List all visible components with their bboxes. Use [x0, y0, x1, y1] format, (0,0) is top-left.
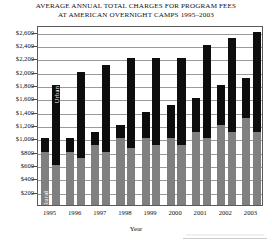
- chart-title-line-2: AT AMERICAN OVERNIGHT CAMPS 1995–2003: [0, 11, 272, 20]
- y-axis-tick-label: $2,000: [0, 70, 34, 77]
- x-axis-tick-label-1998: 1998: [112, 209, 137, 216]
- bar-segment-urban: [116, 125, 124, 138]
- scan-artifact-line: [183, 238, 267, 239]
- bar-segment-rural: [91, 145, 99, 205]
- bar-2002-2: [228, 38, 236, 205]
- bar-segment-rural: [203, 138, 211, 205]
- bar-2001-2: [203, 45, 211, 205]
- bar-segment-urban: [91, 132, 99, 145]
- bar-segment-rural: [192, 132, 200, 205]
- bar-1999-2: [152, 58, 160, 205]
- bar-2003-2: [253, 32, 261, 205]
- x-axis-tick-label-2003: 2003: [238, 209, 263, 216]
- bar-segment-rural: [127, 148, 135, 205]
- bar-segment-rural: [177, 145, 185, 205]
- x-axis-label: Year: [0, 225, 272, 232]
- bar-1999-1: [142, 112, 150, 205]
- scan-artifact-light: [186, 234, 264, 236]
- x-axis-tick-label-1999: 1999: [137, 209, 162, 216]
- bar-1995-2: Urban: [52, 85, 60, 205]
- bar-2003-1: [242, 78, 250, 205]
- bar-2001-1: [192, 98, 200, 205]
- bar-segment-urban: Urban: [52, 85, 60, 165]
- x-axis-tick-label-1996: 1996: [62, 209, 87, 216]
- bar-segment-urban: [152, 58, 160, 145]
- y-axis-tick-label: $800: [0, 150, 34, 157]
- y-axis-tick-label: $400: [0, 176, 34, 183]
- bar-segment-urban: [102, 65, 110, 152]
- bar-segment-urban: [253, 32, 261, 132]
- bar-segment-urban: [77, 72, 85, 159]
- bar-segment-urban: [142, 112, 150, 139]
- y-axis-tick-label: $600: [0, 163, 34, 170]
- y-axis-tick-label: $2,400: [0, 43, 34, 50]
- bar-segment-urban: [41, 138, 49, 151]
- y-axis-tick-label: $1,000: [0, 136, 34, 143]
- bar-series-group: RuralUrban: [38, 27, 262, 205]
- bar-2000-2: [177, 58, 185, 205]
- bar-1995-1: Rural: [41, 138, 49, 205]
- bar-1997-1: [91, 132, 99, 205]
- bar-1996-2: [77, 72, 85, 205]
- chart-title-line-1: AVERAGE ANNUAL TOTAL CHARGES FOR PROGRAM…: [0, 2, 272, 11]
- bar-segment-rural: [167, 138, 175, 205]
- bar-1996-1: [66, 138, 74, 205]
- bar-segment-urban: [177, 58, 185, 145]
- bar-segment-rural: [253, 132, 261, 205]
- in-bar-label-urban: Urban: [52, 86, 59, 103]
- plot-area: RuralUrban: [37, 26, 263, 206]
- bar-segment-urban: [167, 105, 175, 138]
- bar-segment-urban: [203, 45, 211, 138]
- bar-1998-2: [127, 58, 135, 205]
- x-axis-tick-label-2001: 2001: [188, 209, 213, 216]
- bar-segment-rural: [102, 152, 110, 205]
- bar-segment-rural: [228, 132, 236, 205]
- bar-1997-2: [102, 65, 110, 205]
- bar-segment-rural: [217, 125, 225, 205]
- bar-segment-rural: [52, 165, 60, 205]
- y-axis-tick-label: $1,200: [0, 123, 34, 130]
- bar-2000-1: [167, 105, 175, 205]
- bar-segment-urban: [217, 85, 225, 125]
- bar-segment-urban: [242, 78, 250, 118]
- bar-segment-urban: [192, 98, 200, 131]
- x-axis-tick-label-2002: 2002: [213, 209, 238, 216]
- bar-segment-urban: [66, 138, 74, 151]
- bar-segment-rural: [116, 138, 124, 205]
- y-axis-tick-label: $1,600: [0, 96, 34, 103]
- bar-segment-rural: Rural: [41, 152, 49, 205]
- bar-segment-urban: [127, 58, 135, 148]
- bar-segment-urban: [228, 38, 236, 131]
- bar-2002-1: [217, 85, 225, 205]
- x-axis-tick-label-1997: 1997: [87, 209, 112, 216]
- bar-segment-rural: [152, 145, 160, 205]
- x-axis-tick-label-1995: 1995: [37, 209, 62, 216]
- y-axis-tick-label: $1,400: [0, 110, 34, 117]
- y-axis-tick-label: $2,200: [0, 56, 34, 63]
- bar-segment-rural: [142, 138, 150, 205]
- chart-container: AVERAGE ANNUAL TOTAL CHARGES FOR PROGRAM…: [0, 0, 272, 247]
- in-bar-label-rural: Rural: [42, 191, 49, 206]
- bar-segment-rural: [242, 118, 250, 205]
- y-axis-tick-label: $200: [0, 190, 34, 197]
- y-axis-tick-label: $1,800: [0, 83, 34, 90]
- bar-1998-1: [116, 125, 124, 205]
- x-axis-tick-label-2000: 2000: [163, 209, 188, 216]
- chart-title: AVERAGE ANNUAL TOTAL CHARGES FOR PROGRAM…: [0, 2, 272, 21]
- bar-segment-rural: [66, 152, 74, 205]
- bar-segment-rural: [77, 158, 85, 205]
- y-axis-tick-label: $2,600: [0, 30, 34, 37]
